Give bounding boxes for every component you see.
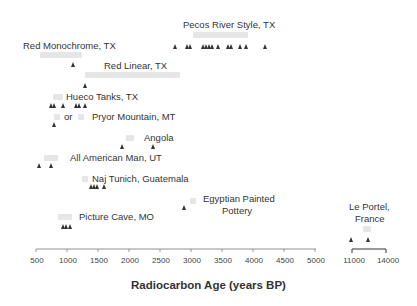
tick-label: 11000 <box>343 256 365 265</box>
tick-label: 3000 <box>183 256 201 265</box>
tick-label: 3500 <box>214 256 232 265</box>
x-axis-title: Radiocarbon Age (years BP) <box>0 279 417 291</box>
tick-label: 1500 <box>90 256 108 265</box>
tick-label: 2500 <box>152 256 170 265</box>
chart-area: Pecos River Style, TX Red Monochrome, TX… <box>0 0 417 306</box>
tick-label: 4000 <box>245 256 263 265</box>
tick-label: 2000 <box>121 256 139 265</box>
tick-label: 4500 <box>276 256 294 265</box>
tick-label: 5000 <box>307 256 325 265</box>
tick-label: 500 <box>30 256 43 265</box>
tick-label: 1000 <box>59 256 77 265</box>
tick-label: 14000 <box>377 256 399 265</box>
